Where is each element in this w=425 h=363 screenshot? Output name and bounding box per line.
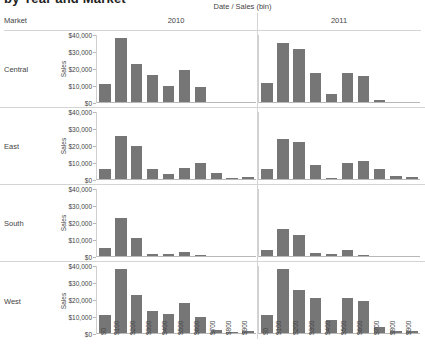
bar[interactable] <box>277 229 289 256</box>
bar[interactable] <box>226 178 237 179</box>
bar-slot <box>208 112 224 179</box>
bar-slot <box>291 112 307 179</box>
y-axis-ticks: $40,000$30,000$20,000$10,000$0 <box>58 31 96 107</box>
panel-divider <box>257 108 258 184</box>
x-tick-label: $600 <box>356 321 363 335</box>
x-tick-slot: $500 <box>176 333 192 363</box>
bar[interactable] <box>310 73 322 102</box>
x-tick-slot: $900 <box>404 333 420 363</box>
bar[interactable] <box>163 86 174 102</box>
bar[interactable] <box>115 136 126 179</box>
y-tick-label: $30,000 <box>69 126 93 133</box>
facet-header-row: Market 2010 2011 <box>0 13 425 30</box>
bar[interactable] <box>99 169 110 179</box>
bar[interactable] <box>326 94 338 102</box>
bar-slot <box>240 35 256 102</box>
y-axis-ticks: $40,000$30,000$20,000$10,000$0 <box>58 185 96 261</box>
y-tick-label: $40,000 <box>69 32 93 39</box>
row-label-east: East <box>4 142 19 151</box>
bar[interactable] <box>179 168 190 179</box>
bar-slot <box>372 35 388 102</box>
bar[interactable] <box>342 163 354 179</box>
bar-slot <box>240 112 256 179</box>
bar[interactable] <box>179 70 190 102</box>
bar-slot <box>388 189 404 256</box>
x-tick-label: $300 <box>307 321 314 335</box>
x-tick-slot: $700 <box>371 333 387 363</box>
x-tick-label: $400 <box>161 321 168 335</box>
plot-east-2011 <box>258 112 420 180</box>
bar[interactable] <box>115 218 126 256</box>
bar[interactable] <box>147 254 158 256</box>
bar[interactable] <box>374 169 386 179</box>
bar-series <box>259 35 420 102</box>
x-tick-label: $800 <box>225 321 232 335</box>
y-tick-label: $0 <box>85 177 92 184</box>
x-tick-slot: $0 <box>96 333 112 363</box>
bar[interactable] <box>147 169 158 179</box>
bar[interactable] <box>310 165 322 179</box>
bar[interactable] <box>358 76 370 102</box>
bar[interactable] <box>99 84 110 102</box>
x-tick-label: $100 <box>113 321 120 335</box>
bar[interactable] <box>195 87 206 102</box>
bar-series <box>259 112 420 179</box>
bar[interactable] <box>406 177 418 179</box>
bar[interactable] <box>293 142 305 179</box>
x-tick-slot: $100 <box>112 333 128 363</box>
bar[interactable] <box>277 139 289 179</box>
bar[interactable] <box>358 161 370 179</box>
bar[interactable] <box>342 73 354 102</box>
y-tick-label: $10,000 <box>69 160 93 167</box>
bar[interactable] <box>326 254 338 256</box>
bar-slot <box>224 35 240 102</box>
bar[interactable] <box>358 255 370 256</box>
x-tick-slot: $400 <box>160 333 176 363</box>
bar[interactable] <box>147 75 158 102</box>
bar[interactable] <box>310 253 322 256</box>
bar[interactable] <box>261 83 273 102</box>
bar[interactable] <box>293 235 305 256</box>
bar[interactable] <box>211 173 222 179</box>
bar-slot <box>259 266 275 333</box>
bar[interactable] <box>242 177 253 179</box>
bar[interactable] <box>261 250 273 256</box>
bar-slot <box>372 112 388 179</box>
bar[interactable] <box>115 38 126 102</box>
bar-slot <box>339 112 355 179</box>
x-tick-label: $500 <box>340 321 347 335</box>
bar[interactable] <box>179 252 190 256</box>
bar-slot <box>224 112 240 179</box>
bar[interactable] <box>342 250 354 256</box>
bar[interactable] <box>195 163 206 179</box>
bar-slot <box>129 189 145 256</box>
bar[interactable] <box>374 100 386 102</box>
x-tick-slot: $200 <box>128 333 144 363</box>
x-tick-slot: $800 <box>224 333 240 363</box>
bar-slot <box>113 112 129 179</box>
x-tick-slot: $300 <box>307 333 323 363</box>
market-row-south: SouthSales$40,000$30,000$20,000$10,000$0 <box>0 185 425 262</box>
bar[interactable] <box>163 174 174 179</box>
bar-slot <box>356 35 372 102</box>
bar[interactable] <box>163 254 174 256</box>
bar-slot <box>208 35 224 102</box>
bar[interactable] <box>326 178 338 179</box>
y-tick-label: $30,000 <box>69 203 93 210</box>
bar[interactable] <box>131 64 142 102</box>
bar[interactable] <box>195 255 206 256</box>
bar[interactable] <box>277 43 289 102</box>
bar-slot <box>307 189 323 256</box>
header-divider <box>257 13 258 30</box>
bar-slot <box>161 112 177 179</box>
bar[interactable] <box>131 238 142 256</box>
bar[interactable] <box>293 49 305 102</box>
column-header-2011: 2011 <box>258 16 420 25</box>
bar[interactable] <box>390 176 402 179</box>
bar[interactable] <box>131 146 142 180</box>
bar[interactable] <box>99 248 110 256</box>
bar-slot <box>404 189 420 256</box>
y-tick-label: $0 <box>85 254 92 261</box>
bar[interactable] <box>261 169 273 179</box>
x-axis-ticks-2011: $0$100$200$300$400$500$600$700$800$900 <box>258 333 420 363</box>
